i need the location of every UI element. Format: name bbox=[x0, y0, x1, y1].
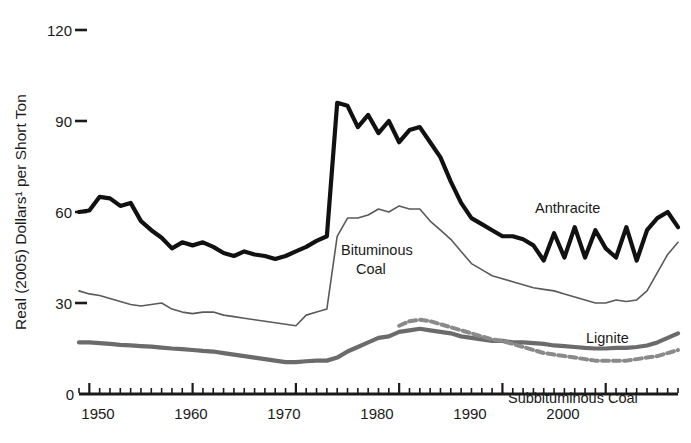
series-label-anthracite: Anthracite bbox=[535, 200, 600, 216]
y-tick-label-120: 120 bbox=[47, 22, 72, 39]
series-label-subbituminous: Subbituminous Coal bbox=[508, 390, 638, 406]
series-label-bituminous-line2: Coal bbox=[356, 261, 386, 277]
chart-page: Real (2005) Dollars¹ per Short Ton 120 9… bbox=[0, 0, 691, 443]
x-tick-label-1990: 1990 bbox=[453, 405, 486, 422]
y-tick-label-60: 60 bbox=[55, 204, 72, 221]
x-tick-label-2000: 2000 bbox=[546, 405, 579, 422]
series-label-bituminous-line1: Bituminous bbox=[341, 242, 413, 258]
y-tick-label-30: 30 bbox=[55, 295, 72, 312]
x-tick-label-1970: 1970 bbox=[267, 405, 300, 422]
series-label-lignite: Lignite bbox=[586, 330, 629, 346]
x-tick-label-1960: 1960 bbox=[174, 405, 207, 422]
coal-price-line-chart: Real (2005) Dollars¹ per Short Ton 120 9… bbox=[0, 0, 691, 443]
y-axis-title: Real (2005) Dollars¹ per Short Ton bbox=[12, 94, 29, 330]
x-tick-label-1980: 1980 bbox=[360, 405, 393, 422]
y-tick-label-0: 0 bbox=[66, 386, 74, 403]
y-tick-label-90: 90 bbox=[55, 113, 72, 130]
x-tick-label-1950: 1950 bbox=[81, 405, 114, 422]
